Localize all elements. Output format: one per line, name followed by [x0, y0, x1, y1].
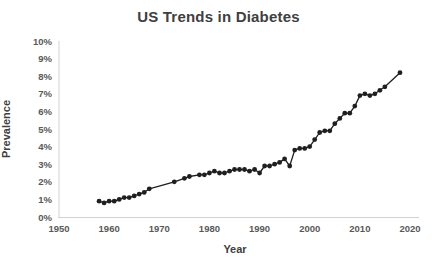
- data-point-1983: [222, 171, 227, 176]
- data-point-1986: [237, 167, 242, 172]
- data-point-1963: [122, 195, 127, 200]
- data-point-1985: [232, 167, 237, 172]
- y-tick-label-6: 6%: [38, 106, 52, 117]
- data-point-1993: [272, 162, 277, 167]
- y-tick-label-2: 2%: [38, 176, 52, 187]
- data-point-1964: [127, 195, 132, 200]
- data-point-2001: [312, 137, 317, 142]
- data-point-1966: [137, 192, 142, 197]
- data-point-1982: [217, 171, 222, 176]
- data-point-1959: [102, 201, 107, 206]
- data-point-1998: [297, 146, 302, 151]
- data-point-2004: [327, 128, 332, 133]
- x-tick-label-2000: 2000: [299, 223, 320, 234]
- data-point-2011: [363, 91, 368, 96]
- data-point-1995: [282, 157, 287, 162]
- y-tick-label-7: 7%: [38, 88, 52, 99]
- data-point-2010: [358, 93, 363, 98]
- data-point-2005: [332, 121, 337, 126]
- data-point-2006: [337, 116, 342, 121]
- series-line-0: [99, 73, 400, 203]
- data-point-1975: [182, 176, 187, 181]
- data-point-1991: [262, 164, 267, 169]
- data-point-1968: [147, 186, 152, 191]
- x-tick-label-1960: 1960: [99, 223, 120, 234]
- y-tick-label-0: 0%: [38, 212, 52, 223]
- data-point-1958: [97, 199, 102, 204]
- data-point-1960: [107, 199, 112, 204]
- data-point-1973: [172, 179, 177, 184]
- x-axis-title: Year: [59, 243, 411, 255]
- diabetes-trends-chart: US Trends in Diabetes 0%1%2%3%4%5%6%7%8%…: [0, 0, 437, 272]
- data-point-2015: [383, 84, 388, 89]
- data-point-1979: [202, 172, 207, 177]
- data-point-2018: [398, 70, 403, 75]
- data-point-1981: [212, 169, 217, 174]
- y-axis-title: Prevalence: [0, 100, 12, 158]
- data-point-1999: [302, 146, 307, 151]
- data-point-2014: [378, 88, 383, 93]
- data-point-1988: [247, 169, 252, 174]
- data-point-2012: [368, 93, 373, 98]
- x-tick-label-1980: 1980: [199, 223, 220, 234]
- data-point-2002: [317, 130, 322, 135]
- x-tick-label-2020: 2020: [399, 223, 420, 234]
- x-tick-label-1950: 1950: [48, 223, 69, 234]
- data-point-1992: [267, 164, 272, 169]
- data-point-1989: [252, 167, 257, 172]
- x-tick-label-2010: 2010: [349, 223, 370, 234]
- data-point-1987: [242, 167, 247, 172]
- data-point-2000: [307, 144, 312, 149]
- y-tick-label-4: 4%: [38, 141, 52, 152]
- data-point-1990: [257, 171, 262, 176]
- y-tick-label-10: 10%: [33, 36, 53, 47]
- data-point-1961: [112, 199, 117, 204]
- x-tick-label-1990: 1990: [249, 223, 270, 234]
- data-point-1976: [187, 174, 192, 179]
- data-point-1965: [132, 194, 137, 199]
- data-point-1980: [207, 171, 212, 176]
- chart-plot-area: 0%1%2%3%4%5%6%7%8%9%10%19501960197019801…: [0, 0, 437, 272]
- y-tick-label-3: 3%: [38, 159, 52, 170]
- data-point-1967: [142, 190, 147, 195]
- x-tick-label-1970: 1970: [149, 223, 170, 234]
- data-point-2007: [342, 111, 347, 116]
- data-point-1978: [197, 172, 202, 177]
- data-point-2009: [352, 104, 357, 109]
- data-point-2003: [322, 128, 327, 133]
- y-tick-label-8: 8%: [38, 71, 52, 82]
- data-point-1984: [227, 169, 232, 174]
- data-point-1997: [292, 148, 297, 153]
- data-point-1996: [287, 164, 292, 169]
- data-point-2008: [347, 111, 352, 116]
- data-point-2013: [373, 91, 378, 96]
- y-tick-label-1: 1%: [38, 194, 52, 205]
- y-tick-label-9: 9%: [38, 53, 52, 64]
- data-point-1994: [277, 160, 282, 165]
- data-point-1962: [117, 197, 122, 202]
- y-tick-label-5: 5%: [38, 124, 52, 135]
